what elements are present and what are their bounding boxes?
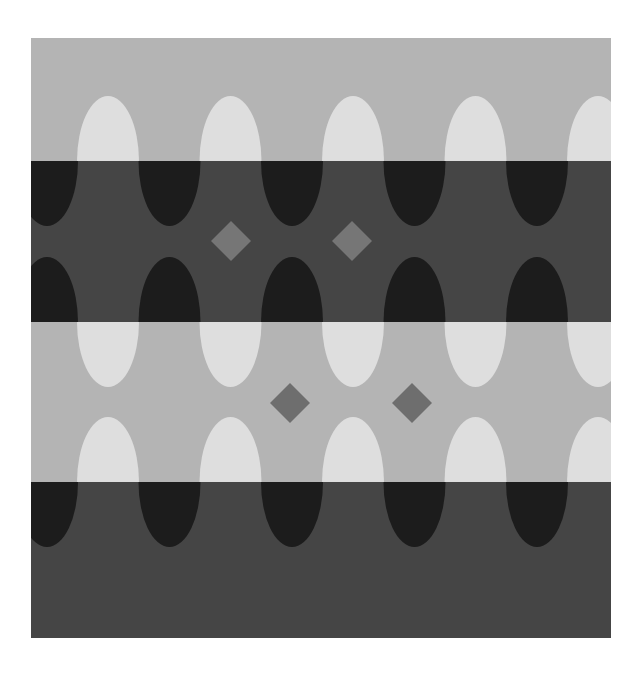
illusion-figure bbox=[0, 0, 643, 675]
